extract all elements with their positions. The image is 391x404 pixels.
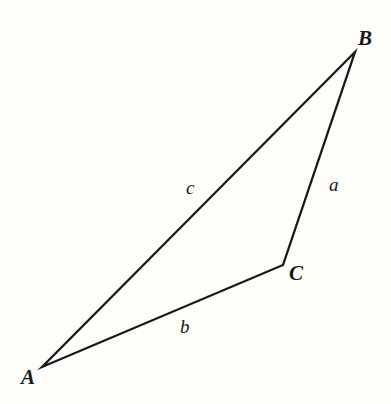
side-label-a: a	[329, 175, 339, 194]
vertex-label-c: C	[289, 263, 303, 284]
side-label-c: c	[186, 178, 194, 197]
triangle-outline	[42, 52, 355, 367]
triangle-abc-drawing	[0, 0, 391, 404]
geometry-figure: A B C a b c	[0, 0, 391, 404]
side-label-b: b	[180, 317, 190, 336]
vertex-label-a: A	[21, 367, 35, 388]
vertex-label-b: B	[358, 28, 372, 49]
